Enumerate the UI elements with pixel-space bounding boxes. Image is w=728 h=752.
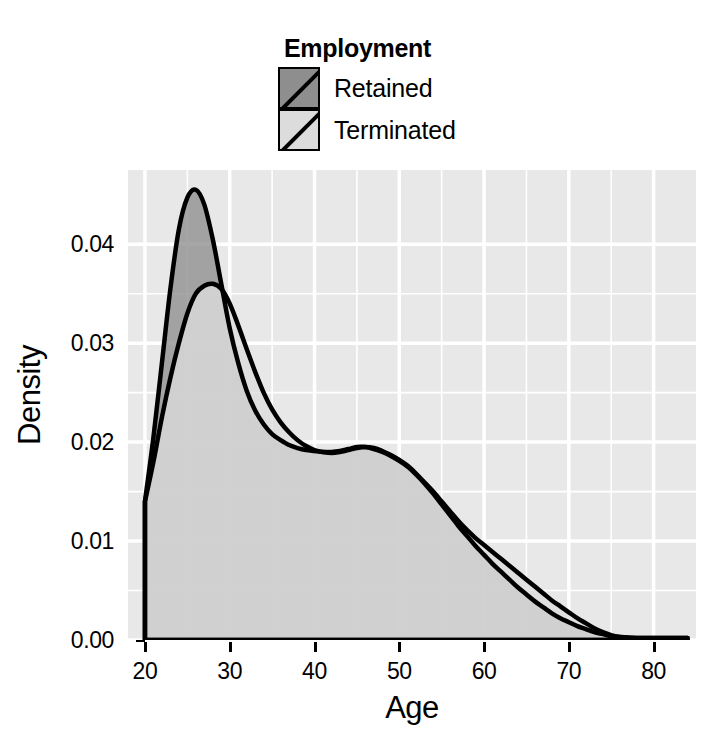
x-tick-label: 50 (359, 658, 439, 685)
y-tick-label: 0.03 (18, 330, 114, 357)
y-tick-label: 0.01 (18, 528, 114, 555)
legend-item-retained[interactable]: Retained (278, 67, 508, 109)
x-tick-mark (568, 642, 571, 652)
x-tick-label: 40 (275, 658, 355, 685)
x-tick-label: 60 (444, 658, 524, 685)
plot-panel (128, 170, 696, 640)
legend-title: Employment (284, 34, 508, 63)
x-tick-label: 70 (529, 658, 609, 685)
x-axis-tick-labels: 20304050607080 (0, 648, 728, 682)
y-tick-label: 0.04 (18, 231, 114, 258)
legend-label-retained: Retained (334, 74, 432, 103)
legend: Employment Retained Terminated (278, 34, 508, 151)
x-tick-mark (314, 642, 317, 652)
x-tick-label: 20 (105, 658, 185, 685)
diagonal-line-icon (278, 109, 320, 151)
legend-item-terminated[interactable]: Terminated (278, 109, 508, 151)
x-tick-mark (653, 642, 656, 652)
x-tick-label: 80 (614, 658, 694, 685)
legend-key-terminated (278, 109, 320, 151)
y-tick-label: 0.02 (18, 429, 114, 456)
density-plot-figure: Employment Retained Terminated Density 0… (0, 0, 728, 752)
x-tick-mark (398, 642, 401, 652)
diagonal-line-icon (278, 67, 320, 109)
legend-label-terminated: Terminated (334, 116, 456, 145)
y-axis-tick-labels: 0.000.010.020.030.04 (18, 0, 114, 752)
x-tick-mark (144, 642, 147, 652)
x-axis-title: Age (128, 690, 696, 726)
legend-key-retained (278, 67, 320, 109)
x-tick-mark (483, 642, 486, 652)
x-tick-label: 30 (190, 658, 270, 685)
x-tick-mark (229, 642, 232, 652)
